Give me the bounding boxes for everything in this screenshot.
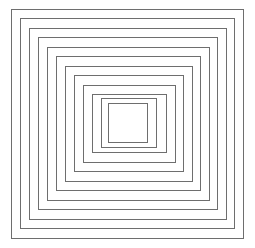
- concentric-squares-diagram: [0, 0, 255, 248]
- figure-canvas: [0, 0, 255, 248]
